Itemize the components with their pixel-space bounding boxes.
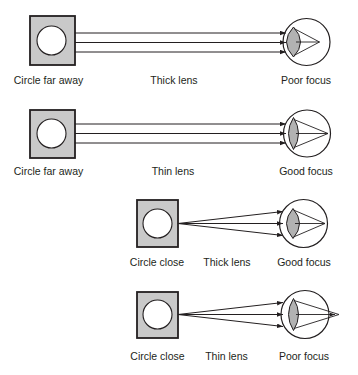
focus-label: Good focus bbox=[277, 256, 331, 268]
lens-label: Thin lens bbox=[205, 350, 248, 362]
light-ray-top bbox=[178, 303, 283, 315]
lens-label: Thick lens bbox=[150, 74, 197, 86]
focus-ray-upper bbox=[294, 120, 328, 134]
row-close-thick-lens: Circle close Thick lens Good focus bbox=[130, 200, 331, 269]
object-circle bbox=[143, 209, 172, 238]
lens-label: Thick lens bbox=[203, 256, 250, 268]
focus-label: Poor focus bbox=[281, 74, 331, 86]
row-far-thick-lens: Circle far away Thick lens Poor focus bbox=[14, 16, 331, 86]
object-circle bbox=[37, 119, 66, 148]
row-far-thin-lens: Circle far away Thin lens Good focus bbox=[14, 110, 333, 177]
optics-diagram: Circle far away Thick lens Poor focus Ci… bbox=[0, 0, 358, 375]
object-circle bbox=[37, 26, 66, 55]
focus-ray-lower bbox=[294, 134, 328, 148]
row-close-thin-lens: Circle close Thin lens Poor focus bbox=[130, 291, 339, 363]
focus-ray-lower bbox=[294, 315, 339, 329]
lens-label: Thin lens bbox=[152, 165, 195, 177]
focus-label: Good focus bbox=[279, 165, 333, 177]
optics-figure: Circle far away Thick lens Poor focus Ci… bbox=[0, 0, 358, 375]
object-circle bbox=[143, 300, 172, 329]
object-label: Circle close bbox=[130, 350, 184, 362]
light-ray-bottom bbox=[178, 224, 283, 236]
object-label: Circle far away bbox=[14, 165, 84, 177]
object-label: Circle far away bbox=[14, 74, 84, 86]
light-ray-bottom bbox=[178, 315, 283, 327]
light-ray-top bbox=[178, 212, 283, 224]
focus-label: Poor focus bbox=[279, 350, 329, 362]
object-label: Circle close bbox=[130, 256, 184, 268]
focus-ray-upper bbox=[294, 301, 339, 315]
